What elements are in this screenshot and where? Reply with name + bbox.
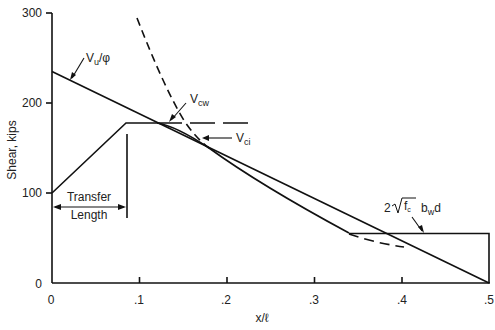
y-axis-label: Shear, kips [5, 120, 19, 179]
y-tick-200: 200 [22, 96, 42, 110]
x-tick-0.2: .2 [221, 293, 231, 307]
arrowhead-left-icon [53, 204, 61, 210]
svg-text:2: 2 [384, 201, 391, 215]
svg-text:bwd: bwd [421, 201, 441, 217]
vci-dashed-extension [349, 234, 404, 247]
min-shear-label: 2 fc bwd [384, 198, 441, 217]
vci-leader-arrowhead-icon [202, 135, 209, 141]
x-tick-0.1: .1 [134, 293, 144, 307]
y-tick-300: 300 [22, 6, 42, 20]
y-tick-0: 0 [35, 277, 42, 291]
vu-phi-line [52, 72, 489, 284]
x-tick-0: 0 [48, 293, 55, 307]
svg-text:fc: fc [404, 199, 411, 213]
x-tick-0.4: .4 [397, 293, 407, 307]
arrowhead-right-icon [118, 204, 126, 210]
vu-phi-label: Vu/φ [86, 51, 110, 67]
x-tick-0.5: .5 [484, 293, 494, 307]
shear-diagram-chart: 300 200 100 0 0 .1 .2 .3 .4 .5 x/ℓ Shear… [0, 0, 495, 330]
x-tick-0.3: .3 [309, 293, 319, 307]
length-label: Length [71, 208, 108, 222]
vcw-label: Vcw [190, 92, 210, 108]
y-tick-100: 100 [22, 186, 42, 200]
x-axis-label: x/ℓ [255, 311, 268, 325]
transfer-label: Transfer [67, 190, 111, 204]
vci-label: Vci [236, 131, 251, 147]
axes [46, 13, 490, 283]
